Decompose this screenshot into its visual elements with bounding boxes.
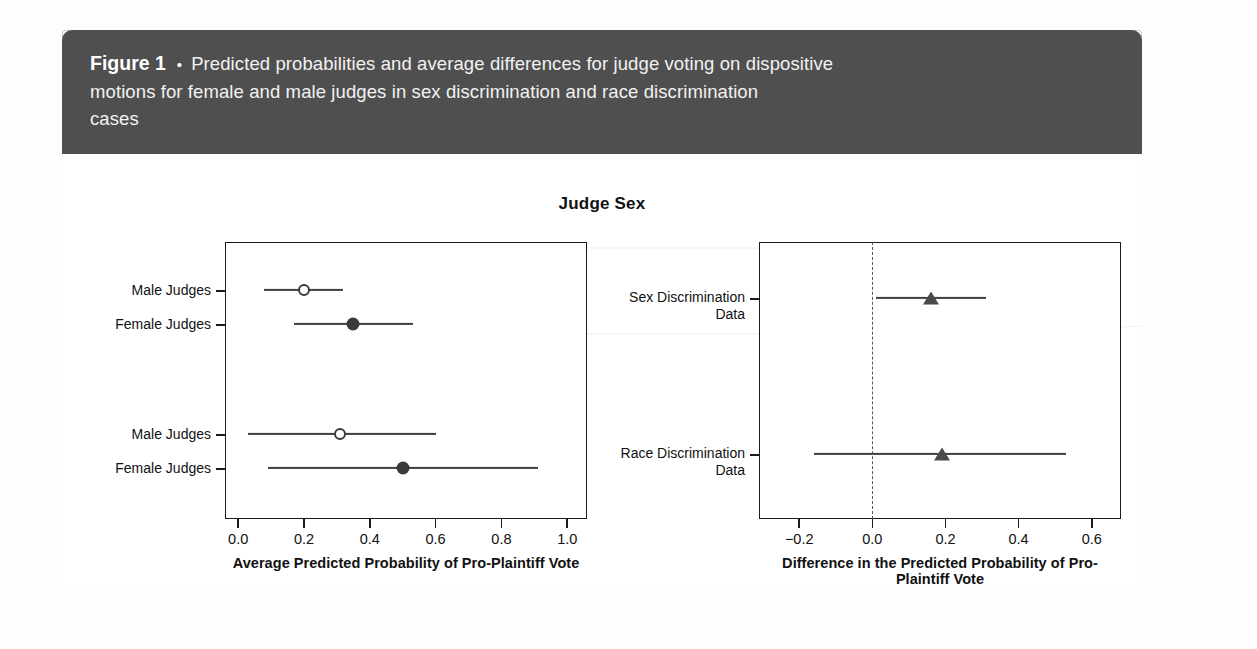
ylabel-male-judges-sex: Male Judges	[132, 282, 211, 299]
ylabel-sex-line1: Sex Discrimination	[629, 289, 745, 305]
x-tick-label: 0.2	[935, 531, 955, 547]
bullet-icon: •	[166, 51, 191, 78]
figure-page: Figure 1 • Predicted probabilities and a…	[0, 0, 1257, 649]
ylabel-sex-discrimination-data: Sex Discrimination Data	[585, 289, 745, 323]
ylabel-race-discrimination-data: Race Discrimination Data	[585, 445, 745, 479]
ylabel-race-line2: Data	[715, 462, 745, 478]
ytick-race-discrimination	[750, 454, 759, 456]
x-tick-label: 0.6	[426, 531, 446, 547]
marker-filled-circle	[347, 318, 360, 331]
x-tick-label: 0.4	[1009, 531, 1029, 547]
panel-frame-right	[759, 242, 1121, 519]
ylabel-race-line1: Race Discrimination	[621, 445, 745, 461]
figure-number-label: Figure 1	[90, 52, 166, 75]
ylabel-female-judges-sex: Female Judges	[115, 316, 211, 333]
ytick-male-sex	[216, 290, 225, 292]
x-axis-title-right: Difference in the Predicted Probability …	[759, 555, 1121, 587]
ytick-sex-discrimination	[750, 298, 759, 300]
panel-predicted-probability: Male Judges Female Judges Male Judges Fe…	[225, 242, 587, 519]
zero-reference-line	[872, 242, 873, 519]
ytick-female-sex	[216, 324, 225, 326]
marker-filled-triangle	[934, 448, 950, 461]
x-tick-label: 1.0	[557, 531, 577, 547]
x-tick	[237, 519, 239, 528]
caption-body: motions for female and male judges in se…	[90, 78, 1102, 132]
ytick-female-race	[216, 468, 225, 470]
x-axis-right: Difference in the Predicted Probability …	[759, 519, 1121, 569]
x-tick	[1091, 519, 1093, 528]
caption-line-2: motions for female and male judges in se…	[90, 78, 1102, 105]
x-tick	[369, 519, 371, 528]
x-tick-label: 0.0	[228, 531, 248, 547]
x-tick-label: 0.8	[491, 531, 511, 547]
x-tick	[501, 519, 503, 528]
ylabel-male-judges-race: Male Judges	[132, 426, 211, 443]
x-tick	[566, 519, 568, 528]
x-tick-label: 0.2	[294, 531, 314, 547]
chart-title: Judge Sex	[62, 194, 1142, 214]
x-tick	[1018, 519, 1020, 528]
marker-filled-triangle	[923, 292, 939, 305]
figure-caption-banner: Figure 1 • Predicted probabilities and a…	[62, 30, 1142, 154]
ytick-male-race	[216, 434, 225, 436]
x-axis-left: Average Predicted Probability of Pro-Pla…	[225, 519, 587, 569]
x-tick	[798, 519, 800, 528]
panel-difference: Sex Discrimination Data Race Discriminat…	[759, 242, 1121, 519]
x-axis-title-left: Average Predicted Probability of Pro-Pla…	[225, 555, 587, 571]
plot-area: Judge Sex Male Judges Female Judges Male…	[62, 154, 1142, 590]
x-tick	[303, 519, 305, 528]
x-tick	[945, 519, 947, 528]
marker-filled-circle	[396, 462, 409, 475]
caption-line-1: Predicted probabilities and average diff…	[191, 50, 833, 77]
caption-inner: Figure 1 • Predicted probabilities and a…	[90, 50, 1102, 132]
ylabel-sex-line2: Data	[715, 306, 745, 322]
x-tick	[435, 519, 437, 528]
caption-first-line: Figure 1 • Predicted probabilities and a…	[90, 50, 1102, 78]
panel-frame-left	[225, 242, 587, 519]
x-tick-label: 0.0	[862, 531, 882, 547]
ylabel-female-judges-race: Female Judges	[115, 460, 211, 477]
marker-open-circle	[298, 284, 310, 296]
x-tick	[872, 519, 874, 528]
x-tick-label: −0.2	[785, 531, 814, 547]
marker-open-circle	[334, 428, 346, 440]
x-tick-label: 0.6	[1082, 531, 1102, 547]
x-tick-label: 0.4	[360, 531, 380, 547]
caption-line-3: cases	[90, 105, 1102, 132]
